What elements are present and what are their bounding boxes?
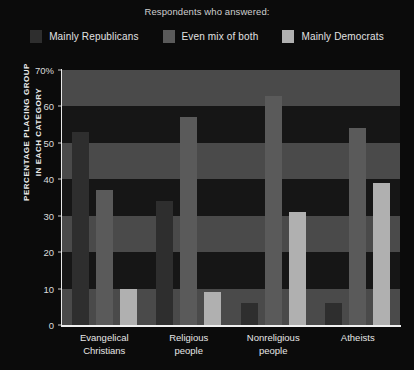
y-axis-label-line1: PERCENTAGE PLACING GROUP <box>22 63 31 201</box>
bar[interactable] <box>120 289 137 325</box>
x-axis-category-label: Religiouspeople <box>147 331 232 357</box>
legend-swatch-mainly-democrats <box>282 30 294 43</box>
x-axis-line <box>61 325 401 327</box>
bars-layer <box>62 70 400 325</box>
legend-swatch-even-mix-of-both <box>163 30 175 43</box>
legend-title: Respondents who answered: <box>0 6 414 17</box>
plot-area <box>62 70 400 325</box>
y-axis-tick-label: 30 <box>43 210 54 221</box>
bar-group <box>62 70 147 325</box>
legend-item-mainly-democrats: Mainly Democrats <box>282 30 383 43</box>
legend-item-even-mix-of-both: Even mix of both <box>163 30 259 43</box>
y-axis-tick-label: 50 <box>43 137 54 148</box>
y-axis-tick-label: 10 <box>43 283 54 294</box>
bar[interactable] <box>349 128 366 325</box>
legend-label-even-mix-of-both: Even mix of both <box>182 31 259 42</box>
y-axis-tick-label: 0 <box>49 320 54 331</box>
bar-chart: Respondents who answered: Mainly Republi… <box>0 0 414 370</box>
y-axis-label: PERCENTAGE PLACING GROUP IN EACH CATEGOR… <box>21 37 45 227</box>
y-axis-tick-label: 60 <box>43 101 54 112</box>
bar-group <box>147 70 232 325</box>
x-axis-category-label: Atheists <box>316 331 401 357</box>
bar[interactable] <box>373 183 390 325</box>
bar[interactable] <box>265 96 282 326</box>
bar[interactable] <box>156 201 173 325</box>
y-axis-label-line2: IN EACH CATEGORY <box>34 88 43 176</box>
x-axis-labels: EvangelicalChristiansReligiouspeopleNonr… <box>62 331 400 357</box>
bar[interactable] <box>204 292 221 325</box>
bar[interactable] <box>289 212 306 325</box>
y-axis-line <box>61 69 62 326</box>
legend-label-mainly-republicans: Mainly Republicans <box>49 31 138 42</box>
bar[interactable] <box>96 190 113 325</box>
y-axis-tick-label: 20 <box>43 247 54 258</box>
bar[interactable] <box>241 303 258 325</box>
y-axis-tick-label: 40 <box>43 174 54 185</box>
chart-legend: Mainly Republicans Even mix of both Main… <box>0 30 414 43</box>
x-axis-category-label: Nonreligiouspeople <box>231 331 316 357</box>
legend-label-mainly-democrats: Mainly Democrats <box>301 31 383 42</box>
x-axis-category-label: EvangelicalChristians <box>62 331 147 357</box>
bar-group <box>231 70 316 325</box>
bar[interactable] <box>72 132 89 325</box>
bar-group <box>316 70 401 325</box>
bar[interactable] <box>180 117 197 325</box>
bar[interactable] <box>325 303 342 325</box>
